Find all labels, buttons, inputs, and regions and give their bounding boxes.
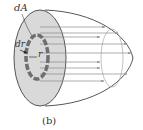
profile-tip-ellipse [101,29,123,87]
label-dA: dA [14,3,28,13]
label-dr: dr [15,40,25,49]
velocity-profile-diagram: dA dr r (b) [0,0,143,130]
figure-caption: (b) [42,116,56,126]
label-r: r [38,50,42,59]
